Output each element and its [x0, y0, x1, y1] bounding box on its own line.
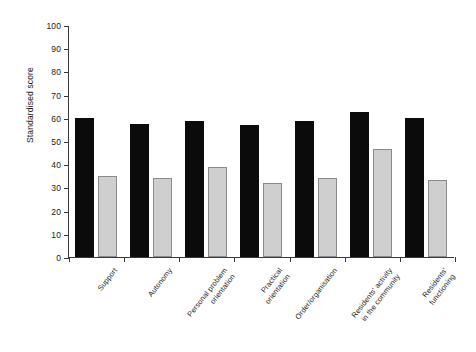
- bar-group: [69, 26, 124, 257]
- bar-chart: Standardised score 100908070605040302010…: [0, 0, 476, 352]
- bar-series-light: [208, 167, 227, 257]
- bar-series-light: [428, 180, 447, 257]
- bar-group: [234, 26, 289, 257]
- plot-area: 1009080706050403020100: [68, 26, 454, 258]
- x-axis-label: Residents' activityin the community: [350, 266, 403, 326]
- x-axis-label: Support: [95, 266, 119, 293]
- y-axis-title: Standardised score: [25, 15, 35, 195]
- bar-group: [179, 26, 234, 257]
- x-tick-mark: [179, 257, 180, 262]
- bar-group: [400, 26, 455, 257]
- bar-series-dark: [405, 118, 424, 257]
- bar-series-light: [98, 176, 117, 257]
- x-axis-label: Practicalorientation: [255, 266, 292, 306]
- bar-series-dark: [185, 121, 204, 257]
- bar-series-dark: [295, 121, 314, 257]
- x-tick-mark: [345, 257, 346, 262]
- bar-series-light: [373, 149, 392, 257]
- x-axis-label: Residents'functioning: [420, 266, 458, 307]
- x-tick-mark: [234, 257, 235, 262]
- y-tick-label: 30: [51, 183, 61, 193]
- x-axis-labels: SupportAutonomyPersonal problemorientati…: [68, 266, 454, 352]
- bar-series-dark: [75, 118, 94, 257]
- bar-series-light: [318, 178, 337, 257]
- bar-series-light: [153, 178, 172, 257]
- bar-series-dark: [350, 112, 369, 257]
- y-tick-label: 20: [51, 207, 61, 217]
- bar-series-dark: [240, 125, 259, 257]
- x-tick-mark: [124, 257, 125, 262]
- bar-group: [345, 26, 400, 257]
- bar-series-light: [263, 183, 282, 257]
- x-tick-mark: [69, 257, 70, 262]
- x-tick-mark: [290, 257, 291, 262]
- x-tick-mark: [455, 257, 456, 262]
- x-axis-label-line: Order/organisation: [293, 266, 339, 322]
- x-axis-label-line: Support: [95, 266, 119, 293]
- x-axis-label: Personal problemorientation: [185, 266, 237, 325]
- x-axis-label-line: Autonomy: [146, 266, 175, 299]
- y-tick-label: 10: [51, 230, 61, 240]
- y-tick-label: 40: [51, 160, 61, 170]
- bar-group: [124, 26, 179, 257]
- y-tick-label: 60: [51, 114, 61, 124]
- x-tick-mark: [400, 257, 401, 262]
- y-tick-label: 50: [51, 137, 61, 147]
- bars-layer: [69, 26, 454, 257]
- y-tick-label: 70: [51, 91, 61, 101]
- y-tick-label: 80: [51, 67, 61, 77]
- bar-series-dark: [130, 124, 149, 257]
- y-tick-label: 0: [56, 253, 61, 263]
- bar-group: [290, 26, 345, 257]
- y-tick-label: 100: [47, 21, 61, 31]
- y-tick-label: 90: [51, 44, 61, 54]
- x-axis-label: Order/organisation: [293, 266, 339, 322]
- x-axis-label: Autonomy: [146, 266, 175, 299]
